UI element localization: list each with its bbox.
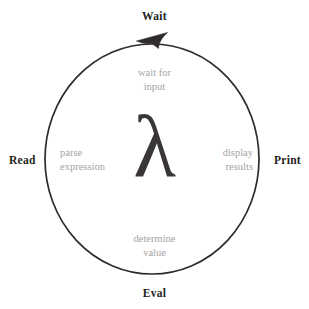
action-text-read: parse expression	[60, 146, 105, 174]
action-text-eval: determine value	[0, 232, 309, 260]
stage-label-wait: Wait	[0, 11, 309, 23]
action-text-read-line-1: parse	[60, 146, 105, 160]
action-text-print-line-1: display	[223, 146, 253, 160]
lambda-glyph: λ	[0, 104, 309, 192]
action-text-wait: wait for input	[0, 66, 309, 94]
action-text-wait-line-2: input	[0, 80, 309, 94]
stage-label-print: Print	[274, 155, 301, 167]
action-text-eval-line-1: determine	[0, 232, 309, 246]
cycle-direction-arrowhead	[137, 33, 168, 49]
action-text-print-line-2: results	[223, 160, 253, 174]
repl-cycle-diagram: λ Wait Read Eval Print wait for input pa…	[0, 0, 309, 309]
action-text-print: display results	[223, 146, 253, 174]
stage-label-read: Read	[9, 155, 36, 167]
action-text-eval-line-2: value	[0, 246, 309, 260]
action-text-wait-line-1: wait for	[0, 66, 309, 80]
stage-label-eval: Eval	[0, 288, 309, 300]
action-text-read-line-2: expression	[60, 160, 105, 174]
